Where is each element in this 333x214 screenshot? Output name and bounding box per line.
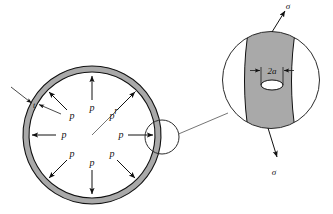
stress-arrow-top: σ — [272, 1, 291, 32]
diagram-canvas: r t p p p — [0, 0, 333, 214]
stress-arrow-bottom: σ — [268, 128, 277, 177]
pressure-label-n: p — [89, 102, 95, 113]
detail-marker-circle — [145, 120, 179, 154]
stress-label-top: σ — [286, 1, 291, 11]
figure-root: r t p p p — [0, 0, 333, 214]
pressure-label-sw: p — [69, 148, 75, 159]
radius-label: r — [114, 106, 118, 116]
pressure-ring-group: r t p p p — [11, 66, 161, 204]
pressure-arrow-sw: p — [49, 148, 75, 178]
pressure-arrow-s: p — [89, 157, 95, 194]
pressure-label-nw: p — [69, 110, 75, 121]
pressure-label-ne: p — [109, 110, 115, 121]
pressure-label-se: p — [109, 148, 115, 159]
detail-view-group: 2a σ σ — [223, 1, 320, 177]
pressure-label-w: p — [61, 129, 67, 140]
pressure-label-s: p — [89, 157, 95, 168]
pressure-arrow-se: p — [109, 148, 136, 178]
pressure-arrow-n: p — [89, 76, 95, 113]
detail-leader-line — [179, 113, 229, 134]
stress-label-bottom: σ — [272, 167, 277, 177]
pressure-arrow-e: p — [118, 129, 154, 140]
crack-length-label: 2a — [268, 66, 278, 76]
pressure-arrow-ne: p — [109, 92, 136, 121]
pressure-arrow-w: p — [32, 129, 67, 140]
pressure-arrow-nw: p — [49, 92, 75, 121]
pressure-label-e: p — [118, 129, 124, 140]
crack-hole — [261, 80, 283, 90]
